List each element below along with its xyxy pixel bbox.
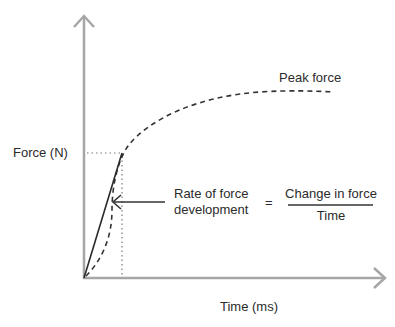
force-time-diagram [0,0,395,327]
fraction-denominator: Time [284,208,378,223]
rfd-label: Rate of force development [174,186,248,218]
x-axis [83,268,385,288]
x-axis-label: Time (ms) [220,299,278,314]
equals-sign: = [265,195,273,210]
pointer-arrow-icon [113,195,165,209]
fraction-numerator: Change in force [284,186,378,201]
y-axis [74,16,94,279]
rfd-label-line2: development [174,202,248,218]
rfd-slope-line [84,153,122,278]
rfd-label-line1: Rate of force [174,186,248,202]
y-axis-label: Force (N) [13,145,68,160]
peak-force-label: Peak force [279,70,341,85]
force-curve [86,91,334,276]
